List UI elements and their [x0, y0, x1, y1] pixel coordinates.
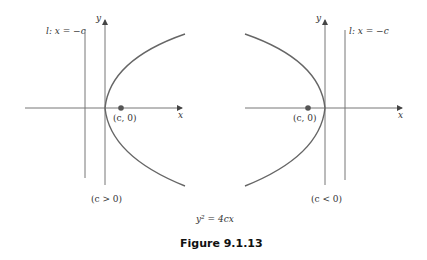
- left-directrix-label: l: x = −c: [46, 26, 86, 36]
- left-focus-label: (c, 0): [113, 113, 137, 123]
- equation-label: y² = 4cx: [196, 214, 234, 224]
- right-focus-label: (c, 0): [293, 113, 317, 123]
- left-condition-label: (c > 0): [91, 194, 122, 204]
- left-plot: [25, 20, 185, 186]
- left-y-label: y: [96, 13, 101, 23]
- right-y-label: y: [316, 13, 321, 23]
- right-focus: [305, 105, 311, 111]
- left-focus: [118, 105, 124, 111]
- left-parabola: [105, 34, 185, 186]
- right-directrix-label: l: x = −c: [349, 26, 389, 36]
- right-plot: [245, 20, 402, 186]
- right-x-label: x: [398, 110, 403, 120]
- left-x-label: x: [178, 110, 183, 120]
- right-parabola: [245, 34, 325, 186]
- right-condition-label: (c < 0): [311, 194, 342, 204]
- figure-caption: Figure 9.1.13: [180, 237, 263, 250]
